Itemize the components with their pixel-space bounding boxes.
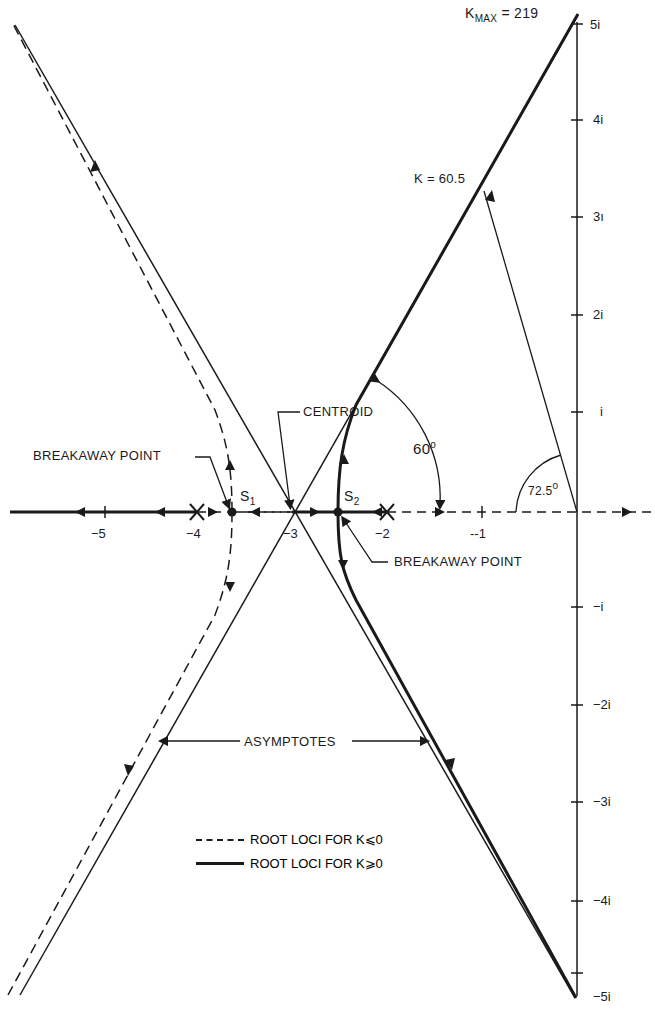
y-tick-label: −5i [593,990,611,1003]
root-loci-k-positive [338,14,578,998]
k-60-5-label: K = 60.5 [414,172,465,185]
y-tick-label: −4i [593,894,611,907]
breakaway-left-leader [195,457,228,505]
legend-label: ROOT LOCI FOR K⩾0 [250,856,383,871]
angle-60-label: 60o [413,441,436,456]
legend-item-solid: ROOT LOCI FOR K⩾0 [196,856,383,871]
breakaway-point-right-label: BREAKAWAY POINT [394,555,522,568]
y-tick-label: −2i [593,698,611,711]
x-tick-label: --1 [470,527,486,540]
breakaway-point-s2 [334,508,343,517]
breakaway-point-s1 [228,508,237,517]
solid-line-swatch [196,862,244,865]
dashed-line-swatch [196,839,244,841]
x-tick-label: −5 [91,527,106,540]
x-tick-label: −4 [186,527,201,540]
s2-label: S2 [344,489,360,503]
angle-72-5-label: 72.5o [528,485,558,497]
y-tick-label: 5i [590,18,600,31]
y-tick-label: −3i [593,795,611,808]
root-loci-k-negative [8,22,292,995]
y-tick-label: 4i [593,113,603,126]
direction-arrows [75,160,632,776]
y-tick-label: −i [593,600,603,613]
y-tick-label: 3ı [593,210,604,223]
kmax-label: KMAX = 219 [465,6,538,20]
k60-5-line [484,191,577,512]
y-tick-label: i [600,405,603,418]
legend-item-dashed: ROOT LOCI FOR K⩽0 [196,832,383,847]
centroid-leader [278,412,300,505]
centroid-label: CENTROID [303,405,373,418]
breakaway-point-left-label: BREAKAWAY POINT [33,449,161,462]
x-tick-label: −2 [375,527,390,540]
y-tick-label: 2i [593,308,603,321]
x-tick-label: −3 [283,527,298,540]
legend-label: ROOT LOCI FOR K⩽0 [250,832,383,847]
asymptotes-label: ASYMPTOTES [244,735,336,748]
s1-label: S1 [240,489,256,503]
